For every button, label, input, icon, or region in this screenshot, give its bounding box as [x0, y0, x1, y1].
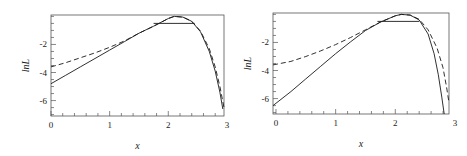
- plot-frame: [273, 13, 449, 114]
- x-axis-label: x: [134, 140, 140, 151]
- plot-frame: [51, 15, 224, 116]
- right-chart-panel: 0123-2-4-6xlnL: [242, 13, 458, 149]
- x-tick-label: 0: [49, 120, 54, 130]
- y-axis-label: lnL: [242, 56, 253, 70]
- solid-series-line: [273, 14, 444, 114]
- x-tick-label: 2: [166, 120, 171, 130]
- dashed-series-line: [51, 16, 224, 107]
- x-axis-label: x: [358, 138, 364, 149]
- dashed-series-line: [273, 14, 449, 102]
- x-tick-label: 1: [333, 118, 338, 128]
- y-tick-label: -2: [262, 37, 270, 47]
- y-axis-label: lnL: [20, 58, 31, 72]
- left-chart-panel: 0123-2-4-6xlnL: [20, 15, 230, 151]
- y-tick-label: -6: [40, 96, 48, 106]
- y-tick-label: -4: [262, 66, 270, 76]
- figure-canvas: 0123-2-4-6xlnL 0123-2-4-6xlnL: [0, 0, 467, 156]
- x-tick-label: 3: [453, 118, 458, 128]
- x-tick-label: 1: [107, 120, 112, 130]
- x-tick-label: 0: [274, 118, 279, 128]
- y-tick-label: -4: [40, 68, 48, 78]
- y-tick-label: -2: [40, 39, 48, 49]
- solid-series-line: [51, 16, 223, 109]
- x-tick-label: 3: [225, 120, 230, 130]
- x-tick-label: 2: [393, 118, 398, 128]
- y-tick-label: -6: [262, 94, 270, 104]
